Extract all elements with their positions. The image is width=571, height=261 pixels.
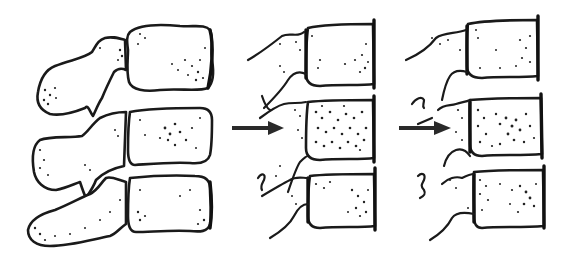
posterior-fragment <box>412 98 424 108</box>
vertebral-body-bottom <box>474 170 544 228</box>
posterior-fragment <box>270 204 308 238</box>
panel-1 <box>28 25 213 246</box>
vertebral-body-middle <box>470 98 542 156</box>
posterior-fragment <box>258 174 265 190</box>
vertebral-body-middle <box>306 100 374 160</box>
posterior-fragment <box>442 71 467 100</box>
posterior-fragment <box>438 100 470 110</box>
panel-2 <box>232 20 375 238</box>
posterior-fragment <box>406 30 466 60</box>
posterior-fragment <box>288 156 308 192</box>
arrow-panel-3 <box>399 121 451 135</box>
posterior-fragment <box>248 32 304 60</box>
arrow-panel-2 <box>232 121 284 135</box>
vertebrae-figure: Three-panel line drawing of lumbar verte… <box>0 0 571 261</box>
posterior-fragment <box>418 174 425 198</box>
posterior-fragment <box>430 213 474 240</box>
panel-3 <box>399 16 544 240</box>
vertebral-body-top <box>467 20 538 78</box>
vertebral-body-middle <box>128 108 212 165</box>
posterior-element-top <box>38 37 127 116</box>
vertebral-body-top <box>306 24 374 86</box>
posterior-fragment <box>442 174 474 184</box>
posterior-element-bottom <box>28 177 126 246</box>
endplate-wall-bottom <box>210 182 212 228</box>
posterior-fragment <box>418 118 432 124</box>
anterior-wall <box>374 20 375 230</box>
vertebral-body-bottom <box>308 174 375 228</box>
posterior-fragment <box>444 149 470 166</box>
posterior-fragment <box>262 178 308 197</box>
